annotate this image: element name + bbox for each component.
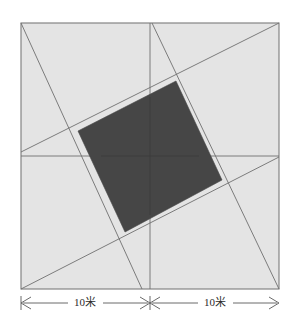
diagram-container: 10米 10米 [0, 0, 299, 332]
dimension-left-label: 10米 [74, 296, 96, 308]
dimension-right-label: 10米 [204, 296, 226, 308]
square-plot-diagram: 10米 10米 [0, 0, 299, 332]
